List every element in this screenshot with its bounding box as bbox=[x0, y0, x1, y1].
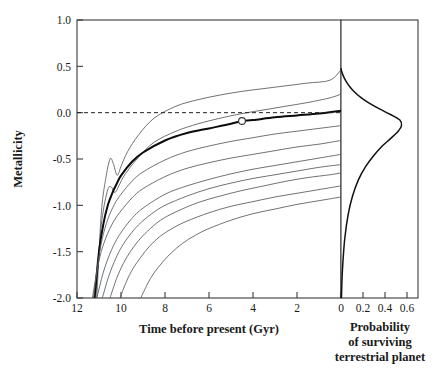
right-x-tick-label-0p2: 0.2 bbox=[356, 302, 371, 314]
right-x-tick-label-0: 0 bbox=[338, 302, 344, 314]
x-tick-label-6: 6 bbox=[206, 302, 212, 314]
sun-marker-group bbox=[239, 118, 246, 125]
y-tick-label-m1p0: -1.0 bbox=[53, 200, 71, 212]
y-tick-label-1p0: 1.0 bbox=[57, 14, 72, 26]
right-panel-frame bbox=[341, 20, 418, 298]
right-plot-area bbox=[341, 20, 418, 298]
figure-container: 1.0 0.5 0.0 -0.5 -1.0 -1.5 -2.0 12 10 8 … bbox=[0, 0, 440, 369]
x-axis-title-left: Time before present (Gyr) bbox=[139, 322, 279, 336]
left-x-tick-labels: 12 10 8 6 4 2 bbox=[71, 302, 300, 314]
sun-marker-icon bbox=[239, 118, 246, 125]
y-tick-label-0p0: 0.0 bbox=[57, 107, 72, 119]
y-axis-title: Metallicity bbox=[11, 129, 25, 187]
y-tick-label-m2p0: -2.0 bbox=[53, 292, 71, 304]
x-tick-label-4: 4 bbox=[250, 302, 256, 314]
x-tick-label-12: 12 bbox=[71, 302, 83, 314]
right-x-tick-label-0p4: 0.4 bbox=[378, 302, 393, 314]
y-tick-label-m1p5: -1.5 bbox=[53, 246, 71, 258]
x-axis-title-right-line2: of surviving bbox=[348, 335, 412, 349]
x-tick-label-2: 2 bbox=[294, 302, 300, 314]
right-x-tick-label-0p6: 0.6 bbox=[400, 302, 415, 314]
y-tick-label-m0p5: -0.5 bbox=[53, 153, 71, 165]
x-tick-label-10: 10 bbox=[115, 302, 127, 314]
x-axis-title-right-line1: Probability bbox=[350, 320, 411, 334]
chart-canvas: 1.0 0.5 0.0 -0.5 -1.0 -1.5 -2.0 12 10 8 … bbox=[0, 0, 440, 369]
x-axis-title-right-line3: terrestrial planet bbox=[335, 350, 426, 364]
right-x-tick-labels: 0 0.2 0.4 0.6 bbox=[338, 302, 414, 314]
x-tick-label-8: 8 bbox=[162, 302, 168, 314]
y-tick-label-0p5: 0.5 bbox=[57, 61, 72, 73]
left-y-tick-labels: 1.0 0.5 0.0 -0.5 -1.0 -1.5 -2.0 bbox=[53, 14, 71, 304]
